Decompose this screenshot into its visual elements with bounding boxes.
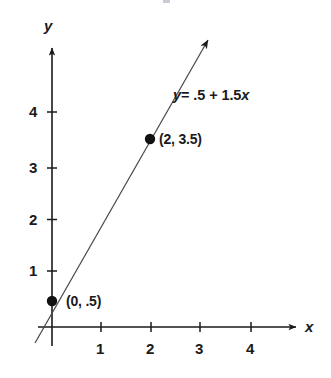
regression-line	[35, 40, 208, 343]
x-tick-label-4: 4	[246, 341, 254, 356]
y-tick-label-1: 1	[29, 263, 37, 278]
y-tick-label-3: 3	[29, 160, 37, 175]
x-tick-label-1: 1	[96, 341, 104, 356]
data-point-second	[145, 134, 155, 144]
x-tick-label-3: 3	[195, 341, 203, 356]
equation-operator: =	[181, 87, 189, 103]
plot-canvas	[0, 0, 331, 378]
x-tick-label-2: 2	[146, 341, 154, 356]
x-axis-label: x	[305, 319, 313, 334]
equation-label: y= .5 + 1.5x	[173, 88, 249, 103]
equation-slope: 1.5	[221, 87, 241, 103]
equation-plus: +	[209, 87, 217, 103]
y-tick-label-2: 2	[29, 212, 37, 227]
point-label-intercept: (0, .5)	[66, 294, 101, 308]
equation-variable: x	[241, 87, 249, 103]
line-graph-figure: y x 4 3 2 1 1 2 3 4 y= .5 + 1.5x (2, 3.5…	[0, 0, 331, 378]
point-label-second: (2, 3.5)	[159, 132, 202, 146]
y-tick-label-4: 4	[29, 104, 37, 119]
y-axis-label: y	[44, 18, 52, 33]
data-point-intercept	[47, 296, 57, 306]
equation-lhs: y	[173, 87, 181, 103]
equation-intercept: .5	[193, 87, 205, 103]
